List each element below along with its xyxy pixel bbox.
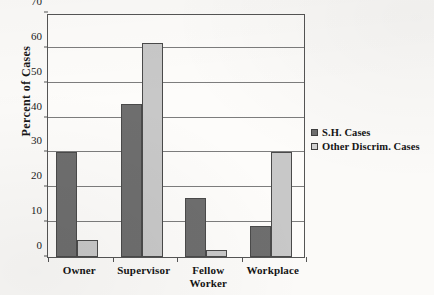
x-axis-tick-mark: [306, 257, 307, 262]
legend: S.H. CasesOther Discrim. Cases: [311, 127, 420, 152]
bar-group: [177, 15, 242, 257]
x-axis-tick-mark: [242, 257, 243, 262]
y-axis-tick-label: 30: [31, 134, 48, 146]
bar: [142, 43, 163, 257]
x-axis-tick-label: Workplace: [228, 264, 318, 277]
x-axis-tick-label-line: Workplace: [228, 264, 318, 277]
bar: [250, 226, 271, 257]
plot-area: 010203040506070: [47, 14, 305, 258]
bar: [271, 152, 292, 257]
bar: [185, 198, 206, 257]
y-axis-tick-label: 10: [31, 204, 48, 216]
bar-group: [48, 15, 113, 257]
dark-gray-swatch-icon: [311, 129, 318, 136]
bar: [56, 152, 77, 257]
y-axis-tick-label: 40: [31, 100, 48, 112]
y-axis-tick-label: 50: [31, 65, 48, 77]
y-axis-tick-label: 60: [31, 30, 48, 42]
legend-item: S.H. Cases: [311, 127, 420, 138]
bar: [77, 240, 98, 257]
y-axis-tick-label: 70: [31, 0, 48, 7]
x-axis-tick-mark: [48, 257, 49, 262]
legend-item-label: Other Discrim. Cases: [322, 141, 420, 152]
bar: [121, 104, 142, 257]
y-axis-tick-label: 0: [37, 239, 49, 251]
y-axis-tick-label: 20: [31, 169, 48, 181]
bar-group: [113, 15, 178, 257]
light-gray-swatch-icon: [311, 143, 318, 150]
bar: [206, 250, 227, 257]
chart-figure: Percent of Cases 010203040506070 OwnerSu…: [0, 0, 434, 295]
x-axis-tick-mark: [113, 257, 114, 262]
x-axis-tick-mark: [177, 257, 178, 262]
legend-item-label: S.H. Cases: [322, 127, 371, 138]
legend-item: Other Discrim. Cases: [311, 141, 420, 152]
x-axis-tick-label-line: Worker: [163, 277, 253, 290]
y-axis-tick-mark: [44, 12, 48, 13]
bar-group: [242, 15, 307, 257]
